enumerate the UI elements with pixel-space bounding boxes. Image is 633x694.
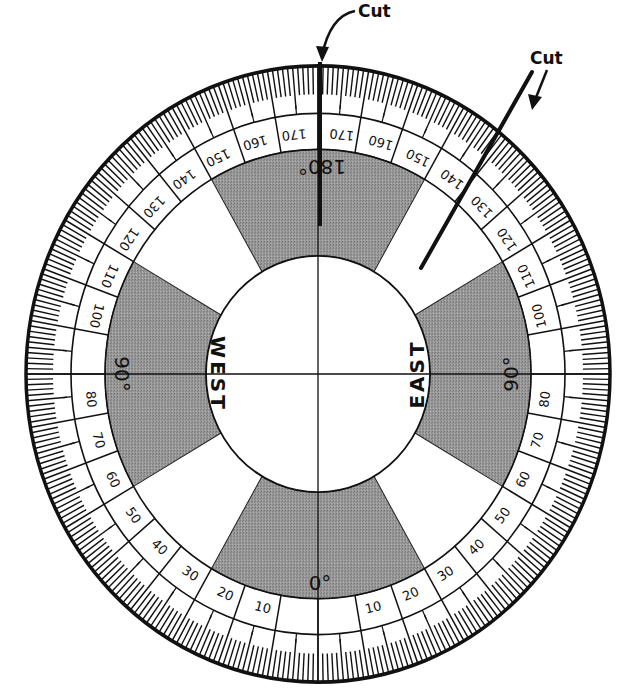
scale-label-west-30: 30 — [179, 563, 201, 585]
scale-label-east-120: 120 — [494, 225, 520, 254]
arrowhead-icon — [316, 46, 329, 62]
cut-label-top: Cut — [358, 1, 391, 21]
scale-label-east-110: 110 — [514, 262, 538, 291]
scale-label-west-120: 120 — [116, 225, 142, 254]
scale-label-east-70: 70 — [528, 430, 547, 450]
degree-marker-bottom: 0° — [309, 571, 332, 595]
scale-label-east-170: 170 — [329, 126, 355, 144]
scale-label-east-80: 80 — [536, 390, 553, 408]
cut-label-right: Cut — [530, 48, 563, 68]
scale-label-west-110: 110 — [98, 262, 122, 291]
scale-label-west-140: 140 — [170, 166, 199, 193]
protractor-dial: 1010202030304040505060607070808010010011… — [0, 0, 633, 694]
scale-label-west-50: 50 — [123, 504, 145, 526]
scale-label-west-70: 70 — [89, 430, 108, 450]
scale-label-west-60: 60 — [103, 469, 124, 490]
callout-cut-top: Cut — [316, 1, 391, 62]
scale-label-west-100: 100 — [86, 302, 107, 330]
protractor-diagram: 1010202030304040505060607070808010010011… — [0, 0, 633, 694]
scale-label-west-130: 130 — [140, 193, 168, 221]
arrow-shaft-icon — [535, 70, 547, 100]
east-label: EAST — [405, 339, 429, 408]
callout-cut-right: Cut — [528, 48, 563, 110]
scale-label-east-50: 50 — [492, 504, 514, 526]
scale-label-west-160: 160 — [241, 132, 269, 153]
scale-label-east-20: 20 — [400, 584, 421, 604]
scale-label-east-160: 160 — [367, 132, 395, 153]
scale-label-west-40: 40 — [148, 536, 170, 558]
scale-label-east-130: 130 — [468, 193, 496, 221]
scale-label-east-100: 100 — [529, 302, 550, 330]
scale-label-east-140: 140 — [438, 166, 467, 193]
scale-label-west-20: 20 — [215, 584, 236, 604]
scale-label-east-60: 60 — [513, 469, 534, 490]
scale-label-east-10: 10 — [363, 598, 383, 617]
scale-label-west-170: 170 — [281, 126, 307, 144]
west-label: WEST — [206, 336, 230, 412]
scale-label-west-10: 10 — [253, 598, 273, 617]
scale-label-east-30: 30 — [434, 563, 456, 585]
scale-label-east-40: 40 — [465, 536, 487, 558]
degree-marker-left: 90° — [110, 356, 134, 391]
arrowhead-icon — [528, 94, 542, 110]
degree-marker-right: 90° — [499, 356, 523, 391]
scale-label-east-150: 150 — [404, 146, 433, 170]
scale-label-west-80: 80 — [83, 390, 100, 408]
scale-label-west-150: 150 — [204, 146, 233, 170]
